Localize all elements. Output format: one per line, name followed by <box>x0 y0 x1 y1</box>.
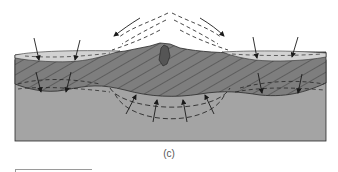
flow-arrow-right <box>200 18 224 36</box>
panel-label: (c) <box>0 148 338 159</box>
geologic-cross-section-diagram <box>0 0 338 172</box>
footer-rule <box>15 169 92 170</box>
footer-rule-tick <box>15 169 16 172</box>
flow-arrow-left <box>114 18 140 36</box>
